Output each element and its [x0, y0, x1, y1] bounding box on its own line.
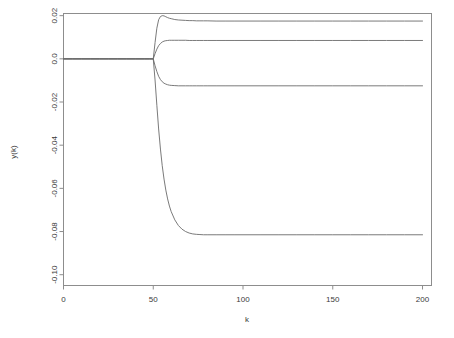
plot-figure: 0.020.0-0.02-0.04-0.06-0.08-0.10 0501001…	[0, 0, 454, 338]
x-tick-label: 150	[326, 295, 340, 304]
y-axis-label: y(k)	[9, 145, 18, 159]
x-tick-label: 100	[236, 295, 250, 304]
y-tick-label: -0.06	[51, 179, 60, 198]
x-tick-label: 50	[149, 295, 158, 304]
y-tick-label: -0.04	[51, 136, 60, 155]
y-tick-label: -0.08	[51, 222, 60, 241]
y-tick-label: 0.0	[51, 53, 60, 65]
plot-background	[0, 0, 454, 338]
x-tick-label: 200	[416, 295, 430, 304]
chart-canvas: 0.020.0-0.02-0.04-0.06-0.08-0.10 0501001…	[0, 0, 454, 338]
y-tick-label: -0.10	[51, 265, 60, 284]
y-tick-label: 0.02	[51, 7, 60, 23]
x-tick-label: 0	[61, 295, 66, 304]
y-tick-label: -0.02	[51, 92, 60, 111]
